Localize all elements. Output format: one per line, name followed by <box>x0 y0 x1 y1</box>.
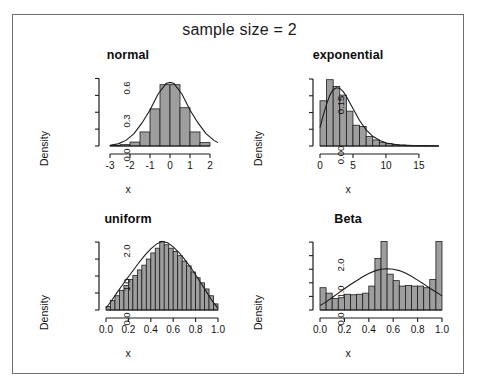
panel-uniform-xlabel: x <box>28 347 228 359</box>
panel-normal: normal Density x 0.00.30.6-3-2-1012 <box>28 48 228 208</box>
y-tick-label: 2.0 <box>121 236 132 266</box>
histogram-bar <box>320 288 326 310</box>
histogram-bar <box>436 242 442 310</box>
histogram-bar <box>169 248 173 310</box>
y-tick-label: 1.0 <box>121 270 132 300</box>
panel-normal-ylabel: Density <box>38 131 50 166</box>
histogram-bar <box>146 259 150 310</box>
panel-beta: Beta Density x 0.01.02.00.00.20.40.60.81… <box>242 212 454 372</box>
histogram-bar <box>430 280 436 310</box>
y-tick-label: 1.0 <box>335 277 346 307</box>
y-tick-label: 0.3 <box>121 106 132 136</box>
histogram-bar <box>346 111 353 146</box>
histogram-bar <box>393 281 399 310</box>
histogram-bar <box>133 275 137 310</box>
histogram-bar <box>412 286 418 310</box>
histogram-bar <box>173 252 177 310</box>
y-tick-label: 0.15 <box>335 90 346 120</box>
histogram-bar <box>182 261 186 310</box>
panel-exponential-title: exponential <box>242 48 454 62</box>
histogram-bar <box>180 108 190 146</box>
histogram-bar <box>151 253 155 310</box>
y-tick-label: 0.6 <box>121 73 132 103</box>
histogram-bar <box>155 248 159 310</box>
histogram-bar <box>115 296 119 310</box>
panel-exponential: exponential Density x 0.000.15051015 <box>242 48 454 208</box>
histogram-bar <box>360 127 367 146</box>
x-tick-label: 1.0 <box>203 324 233 335</box>
panel-normal-xlabel: x <box>28 183 228 195</box>
histogram-bar <box>366 137 373 146</box>
histogram-bar <box>150 109 160 146</box>
histogram-bar <box>164 245 168 310</box>
histogram-bar <box>381 242 387 310</box>
histogram-bar <box>327 80 334 146</box>
histogram-bar <box>160 241 164 310</box>
panel-exponential-xlabel: x <box>242 183 454 195</box>
histogram-bar <box>142 265 146 310</box>
histogram-bar <box>375 258 381 310</box>
x-tick-label: 1.0 <box>427 324 457 335</box>
figure-canvas: sample size = 2 normal Density x 0.00.30… <box>0 0 479 389</box>
histogram-bar <box>187 266 191 310</box>
x-tick-label: 15 <box>404 160 434 171</box>
histogram-bar <box>178 256 182 310</box>
panel-beta-title: Beta <box>242 212 454 226</box>
histogram-bar <box>160 85 170 146</box>
histogram-bar <box>196 278 200 310</box>
histogram-bar <box>351 295 357 310</box>
x-tick-label: 2 <box>195 160 225 171</box>
histogram-bar <box>405 286 411 310</box>
x-tick-label: 0 <box>305 160 335 171</box>
panel-normal-title: normal <box>28 48 228 62</box>
panel-exponential-ylabel: Density <box>252 131 264 166</box>
histogram-bar <box>369 286 375 310</box>
panel-beta-xlabel: x <box>242 347 454 359</box>
panel-beta-ylabel: Density <box>252 295 264 330</box>
main-title: sample size = 2 <box>0 21 479 39</box>
x-tick-label: 10 <box>371 160 401 171</box>
x-tick-label: 5 <box>338 160 368 171</box>
histogram-bar <box>424 288 430 310</box>
histogram-bar <box>191 272 195 310</box>
histogram-bar <box>357 294 363 310</box>
histogram-bar <box>140 132 150 146</box>
y-tick-label: 2.0 <box>335 250 346 280</box>
histogram-bar <box>353 125 360 146</box>
histogram-bar <box>399 286 405 310</box>
panel-uniform: uniform Density x 0.01.02.00.00.20.40.60… <box>28 212 228 372</box>
histogram-bar <box>418 286 424 310</box>
histogram-bar <box>190 132 200 146</box>
histogram-bar <box>387 274 393 310</box>
panel-uniform-ylabel: Density <box>38 295 50 330</box>
histogram-bar <box>137 270 141 310</box>
panel-uniform-title: uniform <box>28 212 228 226</box>
histogram-bar <box>170 85 180 146</box>
histogram-bar <box>363 293 369 310</box>
histogram-bar <box>373 140 380 146</box>
